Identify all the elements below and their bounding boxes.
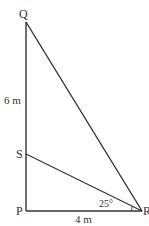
angle-arc-r — [131, 206, 132, 211]
point-label-p: P — [16, 204, 23, 218]
geometry-diagram: Q S P R 6 m 4 m 25° — [0, 0, 149, 226]
point-label-r: R — [143, 204, 149, 218]
point-label-s: S — [16, 147, 23, 161]
length-label-pr: 4 m — [75, 213, 92, 225]
angle-label-r: 25° — [99, 198, 113, 209]
point-label-q: Q — [19, 7, 28, 21]
length-label-qs: 6 m — [4, 94, 21, 106]
